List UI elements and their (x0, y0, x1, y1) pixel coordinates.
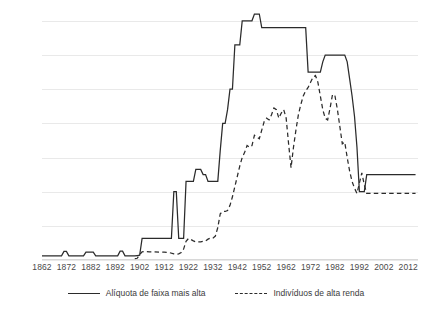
series-line-2 (135, 76, 416, 259)
series-line-1 (42, 14, 416, 256)
chart-legend: Alíquota de faixa mais alta Indivíduos d… (0, 288, 432, 298)
legend-item-top-rate: Alíquota de faixa mais alta (68, 288, 206, 298)
x-tick-label: 1932 (203, 262, 222, 272)
x-tick-label: 1862 (32, 262, 51, 272)
x-tick-label: 1872 (57, 262, 76, 272)
x-tick-label: 1992 (350, 262, 369, 272)
x-tick-label: 1892 (106, 262, 125, 272)
x-tick-label: 2002 (374, 262, 393, 272)
chart-container: 010203040506070 186218721882189219021912… (0, 0, 432, 311)
x-tick-label: 1882 (81, 262, 100, 272)
x-tick-label: 1912 (154, 262, 173, 272)
gridline (42, 260, 418, 261)
legend-label-top-rate: Alíquota de faixa mais alta (106, 288, 206, 298)
x-tick-label: 1962 (277, 262, 296, 272)
legend-label-high-income: Indivíduos de alta renda (273, 288, 364, 298)
x-tick-label: 1942 (228, 262, 247, 272)
series-lines (42, 14, 418, 260)
plot-area (42, 14, 418, 260)
x-tick-label: 1902 (130, 262, 149, 272)
x-tick-label: 2012 (399, 262, 418, 272)
x-tick-label: 1922 (179, 262, 198, 272)
x-tick-label: 1982 (325, 262, 344, 272)
x-tick-label: 1952 (252, 262, 271, 272)
x-tick-label: 1972 (301, 262, 320, 272)
legend-swatch-solid (68, 293, 100, 294)
legend-swatch-dashed (235, 293, 267, 294)
legend-item-high-income: Indivíduos de alta renda (235, 288, 364, 298)
